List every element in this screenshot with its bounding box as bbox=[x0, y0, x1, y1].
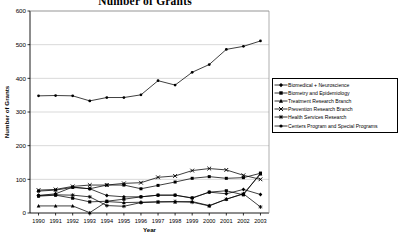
series-centers-program-and-special-programs bbox=[37, 40, 262, 103]
legend-marker-star-icon bbox=[274, 113, 288, 121]
data-point bbox=[88, 195, 92, 199]
data-point bbox=[207, 204, 211, 208]
data-point bbox=[139, 195, 142, 198]
line-chart-svg: 0100200300400500600Number of Grants19901… bbox=[0, 0, 290, 236]
data-point bbox=[88, 100, 91, 103]
data-point bbox=[173, 200, 177, 204]
chart-root: Number of Grants 0100200300400500600Numb… bbox=[0, 0, 398, 236]
chart-legend: Biomedical + NeuroscienceBiometry and Ep… bbox=[272, 78, 398, 133]
y-axis-title: Number of Grants bbox=[3, 85, 10, 138]
data-point bbox=[122, 198, 125, 201]
x-tick-label: 1993 bbox=[84, 218, 96, 224]
series-biomedical-neuroscience-alt-upper bbox=[37, 172, 262, 193]
legend-marker-circle-icon bbox=[274, 122, 288, 130]
data-point bbox=[105, 96, 108, 99]
data-point bbox=[191, 71, 194, 74]
y-tick-label: 300 bbox=[16, 108, 27, 115]
data-point bbox=[139, 201, 143, 205]
plot-area: 0100200300400500600Number of Grants19901… bbox=[0, 0, 290, 236]
data-point bbox=[122, 204, 126, 208]
x-tick-label: 2002 bbox=[237, 218, 249, 224]
data-point bbox=[71, 193, 75, 197]
legend-item-biometry-and-epidemiology[interactable]: Biometry and Epidemiology bbox=[274, 89, 395, 97]
data-point bbox=[225, 189, 228, 192]
series-health-services-research bbox=[37, 192, 263, 209]
data-point bbox=[140, 93, 143, 96]
data-point bbox=[259, 193, 263, 197]
x-axis-title: Year bbox=[143, 226, 157, 233]
data-point bbox=[208, 191, 211, 194]
y-tick-label: 500 bbox=[16, 41, 27, 48]
data-point bbox=[174, 84, 177, 87]
legend-label: Biometry and Epidemiology bbox=[288, 90, 350, 96]
data-point bbox=[225, 48, 228, 51]
x-tick-label: 1990 bbox=[32, 218, 44, 224]
data-point bbox=[242, 187, 246, 191]
y-tick-label: 100 bbox=[16, 176, 27, 183]
legend-marker-triangle-icon bbox=[274, 97, 288, 105]
data-point bbox=[279, 115, 283, 119]
legend-item-centers-program-and-special-programs[interactable]: Centers Program and Special Programs bbox=[274, 121, 395, 129]
x-tick-label: 1994 bbox=[101, 218, 113, 224]
data-point bbox=[174, 181, 177, 184]
data-point bbox=[279, 83, 283, 87]
legend-item-health-services-research[interactable]: Health Services Research bbox=[274, 113, 395, 121]
x-tick-label: 1999 bbox=[186, 218, 198, 224]
data-point bbox=[259, 205, 263, 209]
x-tick-label: 1991 bbox=[49, 218, 61, 224]
legend-label: Health Services Research bbox=[288, 114, 346, 120]
data-point bbox=[279, 91, 282, 94]
x-tick-label: 1995 bbox=[118, 218, 130, 224]
data-point bbox=[105, 194, 109, 198]
legend-item-prevention-research-branch[interactable]: Prevention Research Branch bbox=[274, 105, 395, 113]
data-point bbox=[208, 175, 211, 178]
legend-item-biomedical-neuroscience[interactable]: Biomedical + Neuroscience bbox=[274, 81, 395, 89]
x-tick-label: 1992 bbox=[66, 218, 78, 224]
data-point bbox=[157, 184, 160, 187]
x-tick-label: 2001 bbox=[220, 218, 232, 224]
data-point bbox=[156, 194, 159, 197]
data-point bbox=[279, 124, 282, 127]
data-point bbox=[54, 193, 58, 197]
data-point bbox=[71, 197, 74, 200]
legend-label: Biomedical + Neuroscience bbox=[288, 82, 349, 88]
data-point bbox=[54, 94, 57, 97]
data-point bbox=[242, 45, 245, 48]
y-tick-label: 200 bbox=[16, 142, 27, 149]
data-point bbox=[174, 194, 177, 197]
x-tick-label: 2000 bbox=[203, 218, 215, 224]
data-point bbox=[139, 187, 142, 190]
data-point bbox=[225, 177, 228, 180]
data-point bbox=[224, 197, 228, 201]
legend-marker-x-icon bbox=[274, 105, 288, 113]
data-point bbox=[123, 96, 126, 99]
legend-label: Treatment Research Branch bbox=[288, 98, 351, 104]
legend-item-treatment-research-branch[interactable]: Treatment Research Branch bbox=[274, 97, 395, 105]
data-point bbox=[191, 177, 194, 180]
data-point bbox=[88, 200, 91, 203]
x-tick-label: 2003 bbox=[254, 218, 266, 224]
x-tick-label: 1996 bbox=[135, 218, 147, 224]
legend-label: Prevention Research Branch bbox=[288, 106, 353, 112]
legend-label: Centers Program and Special Programs bbox=[288, 123, 378, 129]
data-point bbox=[37, 94, 40, 97]
y-tick-label: 0 bbox=[23, 209, 27, 216]
data-point bbox=[105, 204, 109, 208]
data-point bbox=[191, 196, 194, 199]
data-point bbox=[259, 40, 262, 43]
data-point bbox=[157, 79, 160, 82]
data-point bbox=[190, 200, 194, 204]
legend-marker-square-icon bbox=[274, 89, 288, 97]
data-point bbox=[37, 194, 41, 198]
data-point bbox=[208, 63, 211, 66]
y-tick-label: 600 bbox=[16, 7, 27, 14]
data-point bbox=[71, 94, 74, 97]
x-tick-label: 1998 bbox=[169, 218, 181, 224]
legend-marker-diamond-icon bbox=[274, 81, 288, 89]
x-tick-label: 1997 bbox=[152, 218, 164, 224]
y-tick-label: 400 bbox=[16, 75, 27, 82]
data-point bbox=[156, 200, 160, 204]
data-point bbox=[224, 192, 228, 196]
data-point bbox=[242, 192, 246, 196]
